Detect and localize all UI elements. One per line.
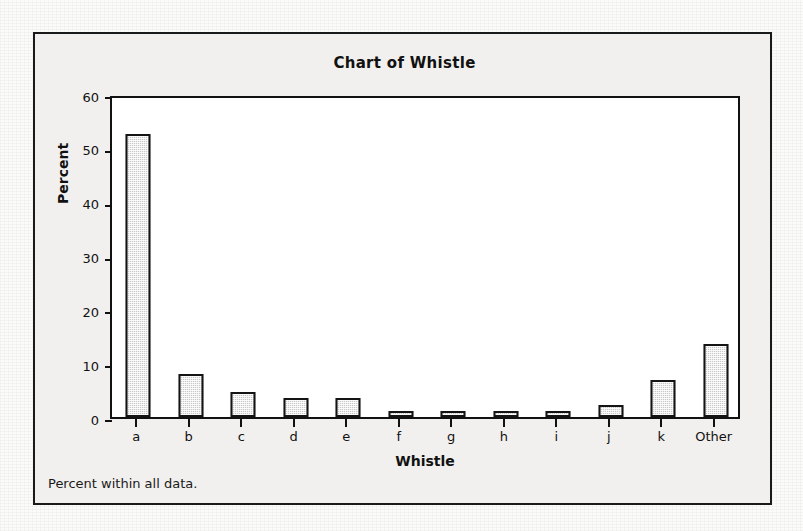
bar-slot <box>217 98 270 417</box>
x-axis-tick-mark <box>660 419 662 427</box>
y-axis-tick-mark <box>105 259 112 261</box>
x-axis-tick-label-b: b <box>159 429 219 444</box>
screenshot-page: Chart of Whistle Percent 0102030405060 a… <box>0 0 803 531</box>
x-axis-tick-label-a: a <box>106 429 166 444</box>
bar-c <box>231 392 256 417</box>
x-axis-tick-label-d: d <box>264 429 324 444</box>
y-axis-tick-mark <box>105 366 112 368</box>
bar-f <box>388 411 413 417</box>
y-axis-tick-label: 20 <box>82 306 105 319</box>
x-axis-tick-mark <box>188 419 190 427</box>
bar-k <box>651 380 676 417</box>
bar-slot <box>690 98 743 417</box>
x-axis-tick-mark <box>293 419 295 427</box>
y-axis-title: Percent <box>55 143 71 204</box>
x-axis-tick-mark <box>713 419 715 427</box>
y-axis-tick-mark <box>105 97 112 99</box>
y-axis-tick-mark <box>105 151 112 153</box>
bar-h <box>493 411 518 417</box>
bar-d <box>283 398 308 417</box>
x-axis-tick-label-f: f <box>369 429 429 444</box>
x-axis-tick-label-j: j <box>579 429 639 444</box>
bar-slot <box>270 98 323 417</box>
y-axis-tick-label: 60 <box>82 91 105 104</box>
y-axis-tick-label: 10 <box>82 360 105 373</box>
chart-footnote: Percent within all data. <box>48 476 197 491</box>
x-axis-tick-mark <box>503 419 505 427</box>
bar-slot <box>375 98 428 417</box>
bar-slot <box>637 98 690 417</box>
bar-g <box>441 411 466 417</box>
bar-b <box>178 374 203 417</box>
y-axis-tick-label: 0 <box>91 414 105 427</box>
x-axis-tick-label-h: h <box>474 429 534 444</box>
y-axis-tick-label: 30 <box>82 252 105 265</box>
bar-a <box>126 134 151 417</box>
x-axis-title: Whistle <box>110 453 740 469</box>
x-axis-tick-labels: abcdefghijkOther <box>110 429 740 449</box>
bar-slot <box>112 98 165 417</box>
y-axis-tick-mark <box>105 205 112 207</box>
bar-j <box>598 405 623 417</box>
x-axis-tick-label-c: c <box>211 429 271 444</box>
footnote-divider <box>35 468 770 469</box>
x-axis-tick-label-g: g <box>421 429 481 444</box>
y-axis-tick-label: 50 <box>82 144 105 157</box>
x-axis-tick-mark <box>240 419 242 427</box>
bar-i <box>546 411 571 417</box>
chart-figure-frame: Chart of Whistle Percent 0102030405060 a… <box>33 32 772 505</box>
x-axis-ticks <box>110 419 740 427</box>
bar-slot <box>322 98 375 417</box>
x-axis-tick-mark <box>398 419 400 427</box>
plot-area: 0102030405060 <box>110 96 740 419</box>
bar-e <box>336 398 361 417</box>
bar-slot <box>480 98 533 417</box>
bar-Other <box>703 344 728 417</box>
x-axis-tick-mark <box>345 419 347 427</box>
x-axis-tick-label-k: k <box>631 429 691 444</box>
bar-slot <box>585 98 638 417</box>
plot-inner: 0102030405060 <box>112 98 738 417</box>
bar-slot <box>427 98 480 417</box>
bar-slot <box>532 98 585 417</box>
x-axis-tick-mark <box>555 419 557 427</box>
bar-slot <box>165 98 218 417</box>
x-axis-tick-mark <box>608 419 610 427</box>
x-axis-tick-mark <box>135 419 137 427</box>
y-axis-tick-label: 40 <box>82 198 105 211</box>
x-axis-tick-label-e: e <box>316 429 376 444</box>
x-axis-tick-label-i: i <box>526 429 586 444</box>
x-axis-tick-label-Other: Other <box>684 429 744 444</box>
y-axis-tick-mark <box>105 312 112 314</box>
chart-title: Chart of Whistle <box>35 54 774 72</box>
x-axis-tick-mark <box>450 419 452 427</box>
